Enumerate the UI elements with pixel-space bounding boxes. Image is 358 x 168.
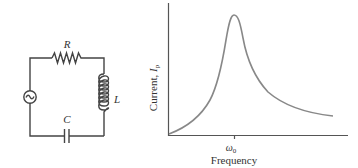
wire-left-top (30, 58, 52, 91)
wire-bottom-left (30, 103, 65, 136)
resonance-chart: ω0 Frequency Current, Ip (147, 3, 348, 166)
rlc-resonance-figure: R L C ω0 Frequency Current, Ip (0, 0, 358, 168)
inductor-icon (99, 74, 109, 136)
resistor-label: R (63, 38, 71, 50)
y-axis-label: Current, Ip (147, 64, 161, 111)
capacitor-label: C (63, 113, 71, 125)
x-axis-label: Frequency (211, 154, 258, 166)
resistor-icon (52, 53, 104, 74)
inductor-label: L (113, 93, 120, 105)
resonance-curve (169, 15, 333, 134)
rlc-circuit: R L C (24, 38, 120, 143)
ac-source-icon (24, 91, 36, 103)
capacitor-icon (65, 129, 70, 143)
